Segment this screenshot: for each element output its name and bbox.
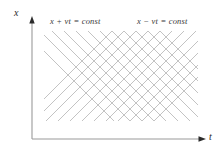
axis-label-t: t (209, 131, 212, 142)
characteristics-plot (0, 0, 224, 149)
vertical-axis-arrow-icon (29, 16, 34, 24)
characteristic-line-family-positive-slope (22, 31, 224, 121)
equation-label-right-family: x − vt = const (137, 16, 188, 26)
characteristic-lines-figure: x t x + vt = const x − vt = const (0, 0, 224, 149)
horizontal-axis (32, 136, 206, 141)
vertical-axis (29, 16, 34, 139)
axis-label-x: x (14, 7, 18, 18)
equation-label-left-family: x + vt = const (50, 16, 101, 26)
horizontal-axis-arrow-icon (199, 136, 207, 141)
